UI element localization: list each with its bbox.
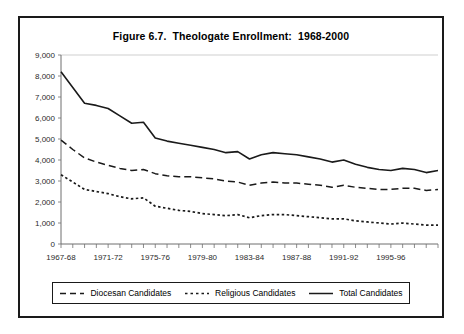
legend-item-diocesan: Diocesan Candidates [59, 288, 171, 298]
legend-item-religious: Religious Candidates [184, 288, 295, 298]
svg-text:7,000: 7,000 [35, 93, 56, 102]
svg-text:1967-68: 1967-68 [46, 253, 76, 262]
svg-text:1971-72: 1971-72 [93, 253, 123, 262]
svg-text:3,000: 3,000 [35, 177, 56, 186]
dotted-line-swatch [184, 289, 210, 298]
svg-text:1979-80: 1979-80 [188, 253, 218, 262]
plot-axes [61, 55, 438, 244]
chart-legend: Diocesan Candidates Religious Candidates… [52, 282, 410, 304]
svg-text:4,000: 4,000 [35, 156, 56, 165]
svg-text:2,000: 2,000 [35, 198, 56, 207]
page-title: Figure 6.7. Theologate Enrollment: 1968-… [20, 30, 442, 42]
legend-label-total: Total Candidates [339, 288, 402, 298]
svg-text:6,000: 6,000 [35, 114, 56, 123]
svg-text:0: 0 [51, 240, 56, 249]
x-axis-ticks [61, 244, 438, 248]
legend-label-religious: Religious Candidates [215, 288, 295, 298]
chart-plot-area: 01,0002,0003,0004,0005,0006,0007,0008,00… [20, 46, 442, 278]
series-line-religious-candidates [61, 175, 438, 225]
figure-frame: Figure 6.7. Theologate Enrollment: 1968-… [18, 16, 444, 318]
legend-label-diocesan: Diocesan Candidates [90, 288, 171, 298]
svg-text:1983-84: 1983-84 [235, 253, 265, 262]
svg-text:1995-96: 1995-96 [376, 253, 406, 262]
x-axis-tick-labels: 1967-681971-721975-761979-801983-841987-… [46, 253, 406, 262]
svg-text:8,000: 8,000 [35, 72, 56, 81]
solid-line-swatch [308, 289, 334, 298]
svg-text:1991-92: 1991-92 [329, 253, 359, 262]
series-line-total-candidates [61, 72, 438, 173]
svg-text:1,000: 1,000 [35, 219, 56, 228]
svg-text:1987-88: 1987-88 [282, 253, 312, 262]
legend-item-total: Total Candidates [308, 288, 402, 298]
svg-text:1975-76: 1975-76 [141, 253, 171, 262]
dashed-line-swatch [59, 289, 85, 298]
series-line-diocesan-candidates [61, 140, 438, 190]
svg-text:9,000: 9,000 [35, 51, 56, 60]
svg-text:5,000: 5,000 [35, 135, 56, 144]
chart-series-lines [61, 72, 438, 225]
y-axis-tick-labels: 01,0002,0003,0004,0005,0006,0007,0008,00… [35, 51, 61, 249]
